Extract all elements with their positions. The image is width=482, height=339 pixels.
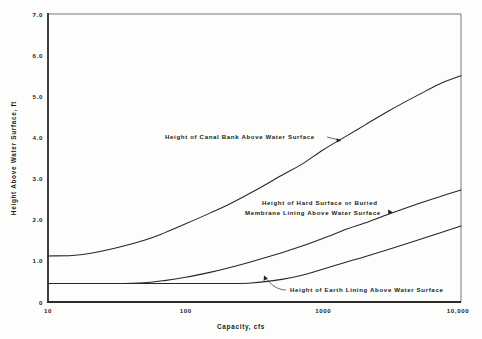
annotation-earth-lining-line-1: Height of Earth Lining Above Water Surfa… — [290, 286, 443, 293]
annotation-hard-surface: Height of Hard Surface or Buried Membran… — [245, 199, 393, 216]
y-tick-label: 2.0 — [33, 216, 43, 223]
annotation-hard-surface-line-2: Membrane Lining Above Water Surface — [245, 209, 381, 216]
x-axis-ticks: 10 100 1000 10,000 — [44, 307, 469, 314]
axis-lines — [47, 13, 461, 303]
x-tick-label: 1000 — [315, 307, 331, 314]
y-axis-title: Height Above Water Surface, ft — [10, 101, 18, 215]
y-tick-label: 0 — [39, 299, 43, 306]
x-tick-label: 100 — [180, 307, 192, 314]
figure-canvas: 7.0 6.0 5.0 4.0 3.0 2.0 1.0 0 10 100 100… — [0, 0, 482, 339]
annotation-canal-bank-line-1: Height of Canal Bank Above Water Surface — [165, 133, 315, 140]
x-tick-label: 10,000 — [447, 307, 470, 314]
y-tick-label: 5.0 — [33, 93, 43, 100]
x-axis-title: Capacity, cfs — [217, 323, 265, 331]
y-tick-label: 7.0 — [33, 11, 43, 18]
curve-canal-bank — [48, 76, 461, 256]
y-tick-label: 3.0 — [33, 175, 43, 182]
y-tick-label: 6.0 — [33, 52, 43, 59]
annotation-hard-surface-line-1: Height of Hard Surface or Buried — [262, 199, 378, 206]
curve-earth-lining — [48, 226, 461, 284]
x-tick-label: 10 — [44, 307, 52, 314]
y-tick-label: 1.0 — [33, 257, 43, 264]
freeboard-chart: 7.0 6.0 5.0 4.0 3.0 2.0 1.0 0 10 100 100… — [0, 0, 482, 339]
plot-frame — [48, 14, 461, 302]
annotation-canal-bank: Height of Canal Bank Above Water Surface — [165, 133, 341, 143]
y-tick-label: 4.0 — [33, 134, 43, 141]
y-axis-ticks: 7.0 6.0 5.0 4.0 3.0 2.0 1.0 0 — [33, 11, 43, 306]
curve-hard-surface — [48, 190, 461, 283]
arrow-head-canal-bank — [337, 138, 342, 142]
